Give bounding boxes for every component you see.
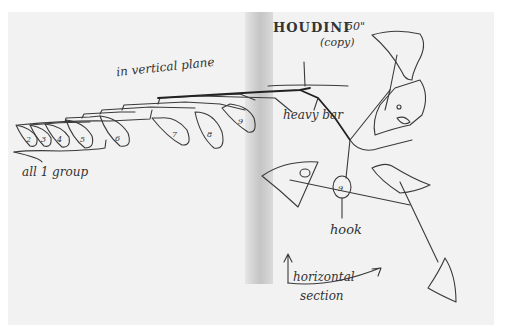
svg-text:6: 6 <box>115 134 120 143</box>
svg-text:9: 9 <box>238 117 243 126</box>
leaf-shapes: 2 3 4 5 6 7 8 9 <box>14 104 255 162</box>
sketch-canvas: 2 3 4 5 6 7 8 9 <box>0 0 506 333</box>
horizontal-label: horizontal <box>293 270 355 284</box>
title-houdini: HOUDINI <box>273 20 350 35</box>
svg-text:2: 2 <box>25 135 31 144</box>
svg-text:5: 5 <box>80 135 85 144</box>
svg-text:9: 9 <box>338 184 343 193</box>
size-label: 50" <box>346 20 365 33</box>
svg-text:3: 3 <box>41 135 46 144</box>
hook-label: hook <box>330 222 362 237</box>
section-label: section <box>300 289 344 303</box>
heavy-bar <box>268 62 350 140</box>
heavy-bar-label: heavy bar <box>283 108 343 122</box>
horizontal-section-cluster: 9 <box>262 31 456 302</box>
svg-text:8: 8 <box>207 130 212 139</box>
svg-text:4: 4 <box>56 135 62 144</box>
copy-note: (copy) <box>320 36 355 49</box>
vertical-plane-wires <box>18 88 310 125</box>
group-note: all 1 group <box>22 165 88 179</box>
svg-text:7: 7 <box>172 130 178 139</box>
